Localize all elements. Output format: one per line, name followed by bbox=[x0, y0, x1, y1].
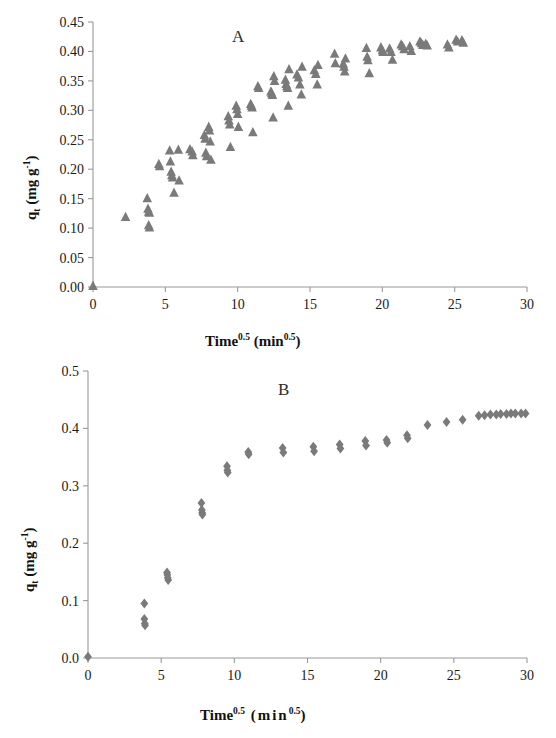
y-axis-title-a: qt (mg g-1) bbox=[22, 156, 42, 220]
data-point-triangle bbox=[362, 43, 372, 52]
data-point-diamond bbox=[424, 420, 432, 430]
data-point-diamond bbox=[443, 417, 451, 427]
panel-label-a: A bbox=[232, 27, 245, 47]
x-axis-title-b-exponent: 0.5 bbox=[233, 706, 245, 716]
data-point-triangle bbox=[268, 112, 278, 121]
scatter-plot-a: 0.000.050.100.150.200.250.300.350.400.45… bbox=[0, 0, 556, 362]
x-axis-title-a-unit-open: (min bbox=[250, 333, 284, 349]
y-axis-title-a-q: q bbox=[23, 212, 39, 220]
data-series-a bbox=[88, 34, 468, 289]
x-tick-label: 30 bbox=[520, 668, 534, 683]
data-point-triangle bbox=[121, 212, 131, 221]
y-tick-label: 0.4 bbox=[62, 421, 80, 436]
x-tick-label: 25 bbox=[448, 297, 462, 312]
data-point-triangle bbox=[313, 60, 323, 69]
data-point-triangle bbox=[297, 89, 307, 98]
data-point-triangle bbox=[142, 193, 152, 202]
data-point-diamond bbox=[140, 598, 148, 608]
y-tick-label: 0.35 bbox=[60, 74, 85, 89]
y-tick-label: 0.20 bbox=[60, 162, 85, 177]
y-tick-label: 0.15 bbox=[60, 192, 85, 207]
y-axis-title-b-subscript: t bbox=[30, 580, 40, 583]
x-axis-title-a-exponent: 0.5 bbox=[238, 332, 250, 342]
y-tick-label: 0.3 bbox=[62, 479, 80, 494]
data-point-triangle bbox=[88, 281, 98, 290]
y-axis-title-a-close: ) bbox=[23, 156, 39, 161]
y-tick-label: 0.25 bbox=[60, 133, 85, 148]
y-tick-label: 0.5 bbox=[62, 364, 80, 379]
data-point-triangle bbox=[312, 79, 322, 88]
data-point-triangle bbox=[248, 127, 258, 136]
y-axis-title-b-q: q bbox=[21, 584, 37, 592]
x-tick-label: 10 bbox=[231, 297, 245, 312]
data-point-triangle bbox=[226, 142, 236, 151]
y-axis-title-b-exponent: -1 bbox=[20, 533, 30, 541]
panel-label-b: B bbox=[278, 380, 290, 400]
x-tick-label: 15 bbox=[301, 668, 315, 683]
x-tick-label: 0 bbox=[90, 297, 97, 312]
scatter-plot-b: 0.00.10.20.30.40.5051015202530 bbox=[0, 362, 556, 738]
chart-panel-a: 0.000.050.100.150.200.250.300.350.400.45… bbox=[0, 0, 556, 362]
x-axis-title-a-unit-close: ) bbox=[296, 333, 301, 349]
x-tick-label: 5 bbox=[158, 668, 165, 683]
data-point-triangle bbox=[284, 64, 294, 73]
y-tick-label: 0.1 bbox=[62, 594, 80, 609]
x-tick-label: 0 bbox=[85, 668, 92, 683]
y-tick-label: 0.10 bbox=[60, 221, 85, 236]
x-axis-title-b: Time0.5 (min0.5) bbox=[200, 706, 306, 724]
y-tick-label: 0.40 bbox=[60, 44, 85, 59]
x-axis-title-a-main: Time bbox=[205, 333, 238, 349]
figure-container: 0.000.050.100.150.200.250.300.350.400.45… bbox=[0, 0, 556, 738]
x-tick-label: 5 bbox=[162, 297, 169, 312]
data-series-b bbox=[84, 408, 529, 661]
data-point-triangle bbox=[165, 145, 175, 154]
x-tick-label: 15 bbox=[303, 297, 317, 312]
y-tick-label: 0.45 bbox=[60, 15, 85, 30]
y-axis-title-a-exponent: -1 bbox=[22, 161, 32, 169]
data-point-triangle bbox=[297, 62, 307, 71]
data-point-triangle bbox=[166, 156, 176, 165]
y-axis-title-a-rest: (mg g bbox=[23, 168, 39, 208]
y-axis-title-b-close: ) bbox=[21, 528, 37, 533]
y-tick-label: 0.00 bbox=[60, 280, 85, 295]
data-point-triangle bbox=[365, 68, 375, 77]
x-tick-label: 20 bbox=[374, 668, 388, 683]
y-tick-label: 0.2 bbox=[62, 536, 80, 551]
y-tick-label: 0.0 bbox=[62, 651, 80, 666]
x-axis-title-a-unit-exponent: 0.5 bbox=[284, 332, 296, 342]
data-point-triangle bbox=[331, 58, 341, 67]
x-tick-label: 20 bbox=[375, 297, 389, 312]
data-point-diamond bbox=[522, 408, 530, 418]
chart-panel-b: 0.00.10.20.30.40.5051015202530 bbox=[0, 362, 556, 738]
y-axis-title-b: qt (mg g-1) bbox=[20, 528, 40, 592]
data-point-triangle bbox=[284, 100, 294, 109]
y-axis-title-b-rest: (mg g bbox=[21, 540, 37, 580]
x-axis-title-b-unit-close: ) bbox=[301, 707, 306, 723]
x-axis-title-b-unit-open: (min bbox=[245, 707, 289, 723]
data-point-triangle bbox=[174, 145, 184, 154]
x-tick-label: 10 bbox=[227, 668, 241, 683]
y-axis-title-a-subscript: t bbox=[32, 208, 42, 211]
x-axis-title-b-main: Time bbox=[200, 707, 233, 723]
x-axis-title-b-unit-exponent: 0.5 bbox=[289, 706, 301, 716]
data-point-triangle bbox=[169, 188, 179, 197]
data-point-triangle bbox=[234, 122, 244, 131]
data-point-diamond bbox=[84, 652, 92, 662]
data-point-diamond bbox=[459, 415, 467, 425]
data-point-triangle bbox=[330, 49, 340, 58]
data-point-triangle bbox=[341, 53, 351, 62]
x-axis-title-a: Time0.5 (min0.5) bbox=[205, 332, 301, 350]
x-tick-label: 25 bbox=[447, 668, 461, 683]
x-tick-label: 30 bbox=[520, 297, 534, 312]
y-tick-label: 0.05 bbox=[60, 251, 85, 266]
y-tick-label: 0.30 bbox=[60, 103, 85, 118]
